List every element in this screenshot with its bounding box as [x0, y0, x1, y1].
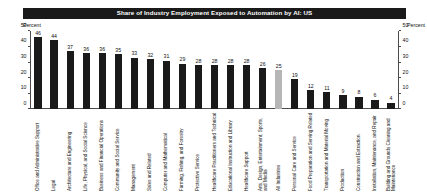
category-label-slot: Sales and Related: [142, 111, 158, 193]
category-label-slot: Protective Service: [190, 111, 206, 193]
category-label: Healthcare Practitioners and Technical: [212, 111, 217, 191]
right-axis-caption: Percent: [407, 23, 425, 28]
axis-tick-10: [399, 93, 401, 94]
category-label: Management: [132, 111, 137, 191]
bar-value-label: 28: [196, 59, 202, 64]
bar-value-label: 35: [115, 48, 121, 53]
bar-slot: 8: [351, 31, 367, 109]
bar[interactable]: 36: [99, 53, 106, 109]
category-label-slot: Building and Grounds Cleaning and Mainte…: [383, 111, 399, 193]
bar[interactable]: 29: [179, 64, 186, 109]
bar[interactable]: 6: [371, 100, 378, 109]
category-label: All Industries: [276, 111, 281, 191]
chart-page: Share of Industry Employment Exposed to …: [0, 0, 427, 195]
category-label: Computer and Mathematical: [164, 111, 169, 191]
bar-slot: 25: [271, 31, 287, 109]
bar-slot: 28: [223, 31, 239, 109]
category-label: Installation, Maintenance, and Repair: [372, 111, 377, 191]
category-label-slot: Construction and Extraction: [351, 111, 367, 193]
category-label: Production: [340, 111, 345, 191]
bar-value-label: 36: [83, 47, 89, 52]
category-label-slot: Architecture and Engineering: [62, 111, 78, 193]
bar[interactable]: 44: [50, 40, 57, 109]
bar-value-label: 37: [67, 45, 73, 50]
category-label-slot: Farming, Fishing, and Forestry: [174, 111, 190, 193]
category-label: Life, Physical, and Social Science: [83, 111, 88, 191]
bar[interactable]: 35: [115, 54, 122, 109]
category-axis-labels: Office and Administrative SupportLegalAr…: [30, 111, 399, 193]
category-label-slot: All Industries: [271, 111, 287, 193]
category-label-slot: Food Preparation and Serving Related: [303, 111, 319, 193]
bar-value-label: 4: [390, 96, 393, 101]
bar-value-label: 6: [374, 93, 377, 98]
bar[interactable]: 4: [387, 103, 394, 109]
bar-value-label: 32: [147, 53, 153, 58]
bar-slot: 4: [383, 31, 399, 109]
bar-value-label: 9: [341, 89, 344, 94]
bar[interactable]: 28: [195, 65, 202, 109]
category-label-slot: Healthcare Practitioners and Technical: [207, 111, 223, 193]
category-label-slot: Community and Social Service: [110, 111, 126, 193]
category-label: Construction and Extraction: [356, 111, 361, 191]
bar-value-label: 33: [131, 51, 137, 56]
bar[interactable]: 33: [131, 58, 138, 109]
category-label: Office and Administrative Support: [35, 111, 40, 191]
bar[interactable]: 8: [355, 97, 362, 109]
bar[interactable]: 28: [243, 65, 250, 109]
bar[interactable]: 36: [83, 53, 90, 109]
axis-tick-label-10: 10: [21, 86, 27, 91]
bar[interactable]: 25: [275, 70, 282, 109]
category-label-slot: Production: [335, 111, 351, 193]
category-label-slot: Management: [126, 111, 142, 193]
bar-slot: 9: [335, 31, 351, 109]
bar[interactable]: 31: [163, 61, 170, 109]
bar[interactable]: 26: [259, 68, 266, 109]
bar-slot: 6: [367, 31, 383, 109]
bar[interactable]: 28: [211, 65, 218, 109]
axis-tick-20: [399, 77, 401, 78]
category-label: Sales and Related: [148, 111, 153, 191]
category-label: Community and Social Service: [116, 111, 121, 191]
bar-value-label: 8: [358, 90, 361, 95]
category-label: Personal Care and Service: [292, 111, 297, 191]
bar-series: 4644373636353332312928282828262519121198…: [30, 31, 399, 109]
bar-slot: 11: [319, 31, 335, 109]
axis-tick-label-0: 0: [24, 101, 27, 106]
axis-tick-0: [399, 108, 401, 109]
bar-value-label: 46: [35, 31, 41, 36]
category-label: Business and Financial Operations: [100, 111, 105, 191]
axis-tick-label-20: 20: [21, 70, 27, 75]
category-label: Legal: [51, 111, 56, 191]
bar[interactable]: 37: [67, 51, 74, 109]
bar[interactable]: 11: [323, 92, 330, 109]
bar[interactable]: 12: [307, 90, 314, 109]
bar-value-label: 11: [324, 86, 329, 91]
category-label-slot: Educational Instruction and Library: [223, 111, 239, 193]
category-label: Architecture and Engineering: [67, 111, 72, 191]
axis-tick-label-10: 10: [403, 86, 409, 91]
bar-slot: 36: [78, 31, 94, 109]
category-label: Food Preparation and Serving Related: [308, 111, 313, 191]
axis-tick-label-50: 50: [403, 23, 409, 28]
axis-tick-label-30: 30: [21, 54, 27, 59]
bar[interactable]: 32: [147, 59, 154, 109]
bar-value-label: 31: [164, 54, 170, 59]
bar-value-label: 25: [276, 64, 282, 69]
category-label-slot: Arts, Design, Entertainment, Sports, and…: [255, 111, 271, 193]
bar[interactable]: 9: [339, 95, 346, 109]
bar-slot: 28: [207, 31, 223, 109]
bar-value-label: 28: [228, 59, 234, 64]
category-label-slot: Personal Care and Service: [287, 111, 303, 193]
axis-tick-label-30: 30: [403, 54, 409, 59]
bar-value-label: 28: [212, 59, 218, 64]
bar[interactable]: 46: [34, 37, 41, 109]
bar-slot: 35: [110, 31, 126, 109]
bar-slot: 46: [30, 31, 46, 109]
bar-value-label: 29: [180, 57, 186, 62]
bar[interactable]: 28: [227, 65, 234, 109]
category-label-slot: Office and Administrative Support: [30, 111, 46, 193]
chart-title-bar: Share of Industry Employment Exposed to …: [23, 8, 406, 19]
bar[interactable]: 19: [291, 79, 298, 109]
category-label: Transportation and Material Moving: [324, 111, 329, 191]
category-label-slot: Installation, Maintenance, and Repair: [367, 111, 383, 193]
